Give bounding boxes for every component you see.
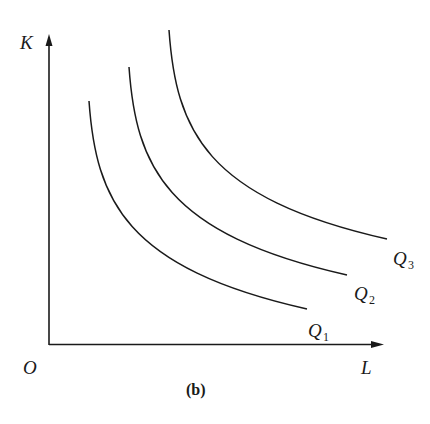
y-axis-arrow-icon	[46, 34, 53, 46]
q1-label: Q 1	[308, 320, 329, 344]
isoquant-q2	[129, 67, 347, 275]
diagram-svg: K L O Q 1 Q 2 Q 3 (b)	[0, 0, 430, 424]
q2-label: Q 2	[354, 283, 375, 307]
q2-label-subscript: 2	[369, 293, 375, 307]
q1-label-subscript: 1	[323, 330, 329, 344]
y-axis-label: K	[19, 32, 34, 53]
q3-label-subscript: 3	[408, 258, 414, 272]
origin-label: O	[23, 357, 37, 378]
x-axis	[49, 341, 384, 348]
x-axis-arrow-icon	[371, 341, 384, 348]
q3-label-name: Q	[393, 248, 407, 269]
q3-label: Q 3	[393, 248, 414, 272]
x-axis-label: L	[360, 357, 372, 378]
figure-caption: (b)	[186, 381, 206, 399]
isoquant-diagram: K L O Q 1 Q 2 Q 3 (b)	[0, 0, 430, 424]
q1-label-name: Q	[308, 320, 322, 341]
isoquant-q1	[89, 101, 307, 309]
q2-label-name: Q	[354, 283, 368, 304]
isoquant-q3	[169, 30, 387, 239]
y-axis	[46, 34, 53, 345]
